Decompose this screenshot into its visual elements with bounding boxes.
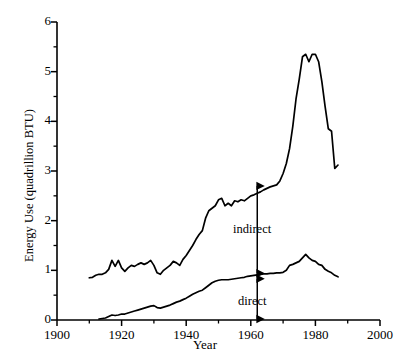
x-tick-label: 1980 (298, 327, 332, 343)
axes (57, 22, 380, 320)
y-tick-label: 4 (37, 112, 51, 128)
y-tick-label: 2 (37, 212, 51, 228)
y-tick-label: 1 (37, 261, 51, 277)
annotation-label-indirect: indirect (233, 222, 271, 237)
y-tick-label: 5 (37, 63, 51, 79)
x-tick-label: 1920 (105, 327, 139, 343)
x-tick-label: 1960 (234, 327, 268, 343)
data-series (89, 54, 338, 319)
energy-use-chart: Energy Use (quadrillion BTU) Year indire… (0, 0, 403, 362)
y-tick-label: 0 (37, 311, 51, 327)
x-tick-label: 1900 (40, 327, 74, 343)
annotation-label-direct: direct (238, 294, 266, 309)
chart-plot-area (0, 0, 403, 362)
x-tick-label: 1940 (169, 327, 203, 343)
x-tick-label: 2000 (363, 327, 397, 343)
y-axis-label: Energy Use (quadrillion BTU) (22, 109, 37, 262)
y-tick-label: 3 (37, 162, 51, 178)
series-line-direct (99, 254, 338, 319)
series-line-indirect (89, 54, 338, 278)
y-tick-label: 6 (37, 13, 51, 29)
